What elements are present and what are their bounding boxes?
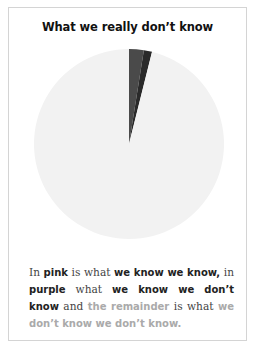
caption-text: and (59, 300, 88, 312)
caption-text: In (29, 266, 44, 278)
caption-text: is what (68, 266, 114, 278)
chart-caption: In pink is what we know we know, in purp… (29, 264, 234, 332)
chart-title: What we really don’t know (9, 20, 246, 34)
caption-remainder-label: the remainder (88, 301, 170, 312)
caption-text: what (66, 283, 112, 295)
caption-pink-label: pink (44, 267, 68, 278)
caption-text: is what (169, 300, 218, 312)
pie-chart (33, 48, 225, 240)
caption-known-knowns: we know we know, (114, 267, 220, 278)
caption-purple-label: purple (29, 284, 66, 295)
pie-slice-unknown-unknowns (34, 49, 224, 239)
caption-text: in (220, 266, 234, 278)
chart-card: What we really don’t know In pink is wha… (8, 7, 247, 341)
